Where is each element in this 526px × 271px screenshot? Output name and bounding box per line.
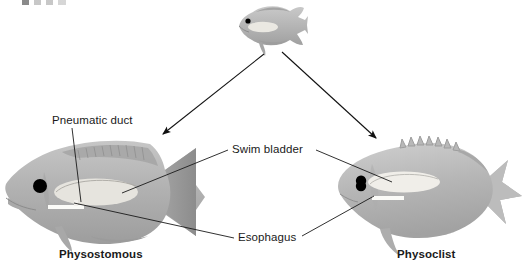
ancestral-fish-swim-bladder (248, 22, 278, 32)
physostomous-eye (33, 179, 47, 193)
label-physostomous: Physostomous (59, 248, 143, 260)
label-physoclist: Physoclist (397, 248, 456, 260)
ancestral-fish-top (239, 6, 308, 56)
label-pneumatic-duct: Pneumatic duct (52, 114, 133, 126)
physoclist-tail (488, 160, 522, 224)
label-swim-bladder: Swim bladder (232, 143, 303, 155)
physoclist-esophagus (372, 196, 404, 200)
arrow-to-physoclist (282, 52, 376, 138)
arrow-to-physostomous (163, 54, 264, 134)
physoclist-eye-disc (356, 181, 366, 191)
label-esophagus: Esophagus (238, 231, 296, 243)
physoclist-fish-right (338, 136, 522, 256)
physostomous-esophagus (48, 205, 84, 209)
figure-canvas: Pneumatic duct Swim bladder Esophagus Ph… (0, 0, 526, 271)
physostomous-fish-left (5, 141, 205, 252)
ancestral-fish-eye (245, 18, 250, 23)
